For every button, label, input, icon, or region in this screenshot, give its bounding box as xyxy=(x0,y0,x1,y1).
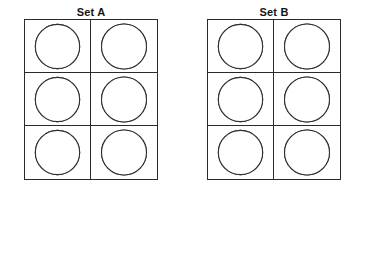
set-b-r1c1-pie xyxy=(208,20,273,73)
set-a-r2c2-pie xyxy=(91,73,157,126)
set-a-r1c1-pie xyxy=(25,20,90,73)
set-a-grid xyxy=(24,19,158,180)
set-b-r1c2 xyxy=(274,20,340,73)
set-b-r3c1-pie xyxy=(208,126,273,179)
set-a-title: Set A xyxy=(0,6,182,19)
set-b-r3c1 xyxy=(208,126,274,179)
set-b-r1c1 xyxy=(208,20,274,73)
circle-rim xyxy=(102,24,147,69)
circle-rim xyxy=(35,77,79,121)
circle-rim xyxy=(285,77,330,122)
circle-rim xyxy=(102,130,147,175)
set-b-r2c1-pie xyxy=(208,73,273,126)
circle-rim xyxy=(218,130,262,174)
circle-rim xyxy=(218,24,262,68)
set-a-r3c2-pie xyxy=(91,126,157,179)
circle-rim xyxy=(285,130,330,175)
set-b-r2c2-pie xyxy=(274,73,340,126)
set-a-r1c2-pie xyxy=(91,20,157,73)
circle-rim xyxy=(285,24,330,69)
circle-rim xyxy=(35,130,79,174)
set-b-block: Set B xyxy=(183,6,365,180)
set-a-r3c1 xyxy=(25,126,91,179)
set-a-r1c1 xyxy=(25,20,91,73)
pie-figure: Set A Set B xyxy=(0,0,365,256)
set-b-r3c2-pie xyxy=(274,126,340,179)
set-a-r2c1 xyxy=(25,73,91,126)
set-a-r2c1-pie xyxy=(25,73,90,126)
set-b-r2c1 xyxy=(208,73,274,126)
set-a-block: Set A xyxy=(0,6,182,180)
set-b-r3c2 xyxy=(274,126,340,179)
set-b-r2c2 xyxy=(274,73,340,126)
set-a-r2c2 xyxy=(91,73,157,126)
set-b-grid xyxy=(207,19,341,180)
circle-rim xyxy=(102,77,147,122)
set-a-r3c2 xyxy=(91,126,157,179)
circle-rim xyxy=(35,24,79,68)
set-a-r3c1-pie xyxy=(25,126,90,179)
set-a-r1c2 xyxy=(91,20,157,73)
circle-rim xyxy=(218,77,262,121)
set-b-title: Set B xyxy=(183,6,365,19)
set-b-r1c2-pie xyxy=(274,20,340,73)
